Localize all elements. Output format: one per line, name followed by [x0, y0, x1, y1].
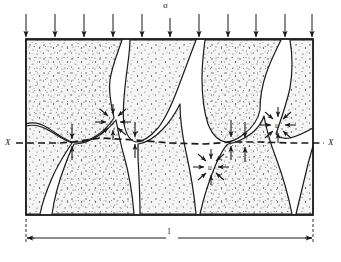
figure-canvas	[0, 0, 341, 262]
unit-width-label: 1	[167, 228, 171, 236]
section-label-left: X	[5, 138, 11, 147]
applied-stress-label: σ	[163, 1, 168, 10]
pore-pressure-label-1: u	[110, 119, 114, 127]
pore-pressure-label-2: u	[208, 164, 212, 172]
applied-total-stress-arrows	[26, 14, 312, 37]
pore-pressure-label-3: u	[275, 122, 279, 130]
effective-stress-figure: σ X X 1 u u u	[0, 0, 341, 262]
section-label-right: X	[328, 138, 334, 147]
